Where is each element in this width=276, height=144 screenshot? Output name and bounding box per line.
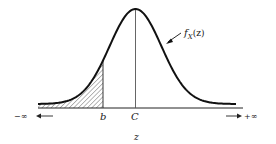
right-arrow-icon: [237, 114, 242, 119]
axis-variable-label: z: [133, 132, 139, 142]
mean-label: C: [131, 111, 139, 122]
density-curve: [38, 9, 236, 104]
curve-label: fX(z): [183, 27, 204, 41]
normal-distribution-diagram: fX(z) −∞ +∞ b C z: [0, 0, 276, 144]
bound-label: b: [100, 111, 106, 122]
left-arrow-icon: [36, 114, 41, 119]
diagram-svg: fX(z) −∞ +∞ b C z: [0, 0, 276, 144]
right-infinity-label: +∞: [244, 112, 257, 121]
left-infinity-label: −∞: [14, 112, 27, 121]
